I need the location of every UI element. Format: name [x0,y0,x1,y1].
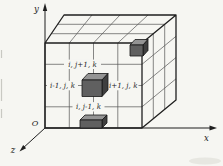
grid-stencil-figure: i, j+1, k i-1, j, k i+1, j, k i, j-1, k [0,0,223,166]
node-label-east: i+1, j, k [109,81,138,90]
cube-front-face [80,120,102,128]
highlight-cube-center [82,74,108,97]
highlight-cube-top-right [130,40,148,57]
y-axis-label: y [33,4,39,14]
highlight-cube-bottom [80,115,107,128]
scan-artifact-smudge [189,158,221,165]
x-axis-label: x [204,133,209,143]
node-label-west: i-1, j, k [50,81,75,90]
cube-front-face [130,45,143,56]
node-label-south: i, j-1, k [76,102,101,111]
cube-front-face [82,80,102,97]
node-label-north: i, j+1, k [68,60,97,69]
z-axis-label: z [10,145,16,155]
stencil-diagram-svg: i, j+1, k i-1, j, k i+1, j, k i, j-1, k [0,0,223,166]
origin-label: O [32,119,39,128]
